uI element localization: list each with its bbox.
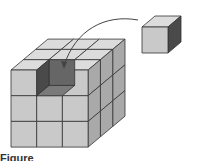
cube-front-face (11, 121, 37, 147)
cube-front-face (37, 121, 63, 147)
cube-front-face (37, 96, 63, 122)
cube-front-face (62, 121, 88, 147)
cube-front-face (62, 96, 88, 122)
figure-caption: Figure (0, 153, 34, 161)
cube-diagram (0, 0, 201, 161)
hole-back-wall (49, 60, 75, 86)
cube-front-face (11, 70, 37, 96)
cube-front-face (11, 96, 37, 122)
removed-cube-front-face (142, 27, 168, 53)
